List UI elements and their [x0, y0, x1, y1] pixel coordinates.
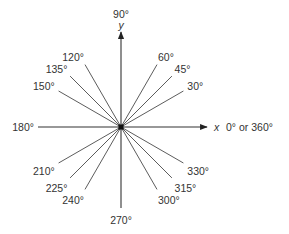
label-135: 135°	[46, 63, 68, 75]
label-300: 300°	[158, 194, 180, 206]
label-120: 120°	[62, 51, 84, 63]
label-315: 315°	[175, 182, 197, 194]
label-45: 45°	[175, 63, 191, 75]
label-150: 150°	[33, 80, 55, 92]
label-240: 240°	[62, 194, 84, 206]
angle-diagram: 90° y 180° x 0° or 360° 270° 30°45°60°12…	[0, 0, 289, 234]
label-210: 210°	[33, 165, 55, 177]
label-30: 30°	[187, 80, 203, 92]
origin-point	[119, 125, 124, 130]
label-225: 225°	[46, 182, 68, 194]
x-axis-label: x	[213, 121, 220, 133]
label-270: 270°	[110, 214, 132, 226]
y-axis-label: y	[117, 19, 124, 31]
label-0-or-360: 0° or 360°	[226, 121, 273, 133]
label-180: 180°	[12, 121, 34, 133]
label-330: 330°	[187, 165, 209, 177]
label-60: 60°	[158, 51, 174, 63]
